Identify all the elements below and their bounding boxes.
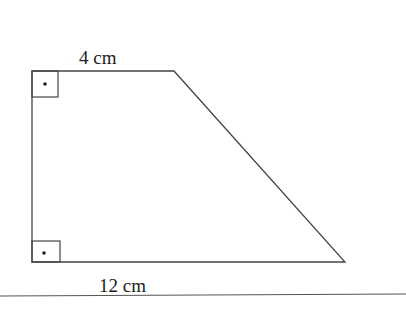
baseline-rule [0,294,406,296]
right-angle-dot-top [43,82,47,86]
right-angle-dot-bottom [42,251,46,255]
top-side-label: 4 cm [79,48,116,67]
trapezoid-outline [32,71,345,262]
right-angle-marker-bottom [32,241,60,262]
bottom-side-label: 12 cm [99,276,146,295]
trapezoid-diagram [0,0,406,316]
